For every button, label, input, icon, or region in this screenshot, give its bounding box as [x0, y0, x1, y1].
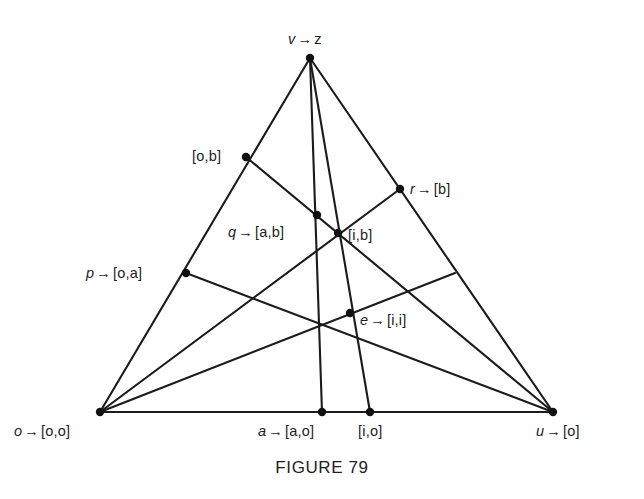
label-value-ib: [i,b]: [348, 227, 372, 243]
point-label-a: a→[a,o]: [258, 424, 314, 439]
label-value-o: [o,o]: [41, 423, 70, 439]
label-arrow-v: →: [295, 31, 314, 47]
edge-cevian-ob-u: [246, 157, 553, 412]
label-arrow-u: →: [544, 423, 563, 439]
edge-cevian-v-a: [310, 58, 322, 412]
label-value-v: z: [314, 31, 321, 47]
label-arrow-o: →: [22, 423, 41, 439]
vertex-dot-ob: [242, 153, 250, 161]
point-label-u: u→[o]: [536, 424, 580, 439]
vertex-dot-a: [318, 408, 326, 416]
point-label-q: q→[a,b]: [228, 225, 284, 240]
point-label-r: r→[b]: [410, 182, 450, 197]
vertex-dot-q: [313, 211, 321, 219]
label-value-u: [o]: [563, 423, 580, 439]
point-label-v: v→z: [288, 32, 322, 47]
vertex-dot-p: [182, 269, 190, 277]
label-arrow-q: →: [236, 224, 255, 240]
point-label-e: e→[i,i]: [360, 313, 407, 328]
edge-cevian-o-rightside: [100, 273, 455, 412]
edge-cevian-o-r: [100, 189, 400, 412]
label-arrow-e: →: [368, 312, 387, 328]
point-label-p: p→[o,a]: [86, 266, 142, 281]
label-arrow-a: →: [266, 423, 285, 439]
label-value-a: [a,o]: [285, 423, 314, 439]
label-arrow-r: →: [415, 181, 434, 197]
vertex-dot-e: [346, 309, 354, 317]
label-value-r: [b]: [434, 181, 451, 197]
vertex-dots-group: [96, 54, 557, 416]
label-value-e: [i,i]: [387, 312, 407, 328]
point-label-o: o→[o,o]: [14, 424, 70, 439]
point-label-ib: [i,b]: [348, 228, 372, 243]
vertex-dot-ib: [334, 229, 342, 237]
vertex-dot-o: [96, 408, 104, 416]
vertex-dot-v: [306, 54, 314, 62]
vertex-dot-io: [366, 408, 374, 416]
label-arrow-p: →: [94, 265, 113, 281]
vertex-dot-u: [549, 408, 557, 416]
label-value-ob: [o,b]: [192, 148, 221, 164]
point-label-io: [i,o]: [358, 424, 382, 439]
point-label-ob: [o,b]: [192, 149, 221, 164]
figure-caption: FIGURE 79: [0, 458, 644, 478]
edge-cevian-p-u: [186, 273, 553, 412]
edges-group: [100, 58, 553, 412]
edge-triangle-side-right: [310, 58, 553, 412]
vertex-dot-r: [396, 185, 404, 193]
label-value-p: [o,a]: [113, 265, 142, 281]
label-value-q: [a,b]: [255, 224, 284, 240]
label-value-io: [i,o]: [358, 423, 382, 439]
figure-container: v→z[o,b]r→[b]q→[a,b][i,b]p→[o,a]e→[i,i]o…: [0, 0, 644, 499]
